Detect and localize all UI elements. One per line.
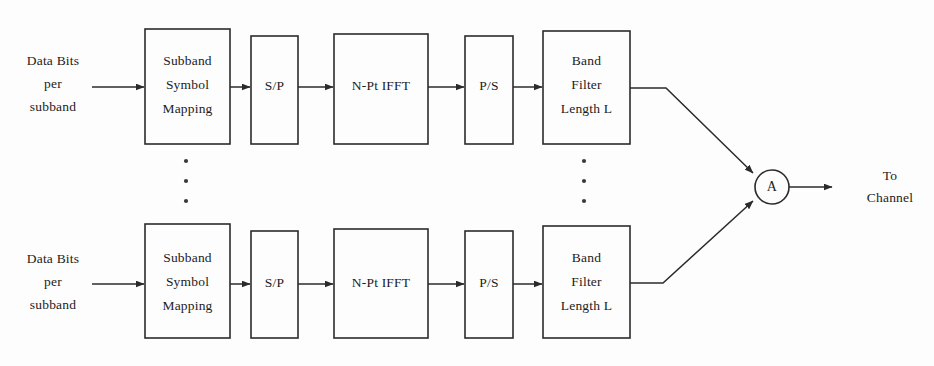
top-input-label-line1: Data Bits bbox=[27, 53, 79, 68]
top-block-parallel-to-serial-label: P/S bbox=[479, 78, 498, 93]
bottom-block-band-filter-line2: Filter bbox=[571, 274, 602, 289]
bottom-block-parallel-to-serial-label: P/S bbox=[479, 275, 498, 290]
block-diagram-canvas: Data Bits per subband Subband Symbol Map… bbox=[0, 0, 934, 366]
left-ellipsis-dot-2 bbox=[184, 179, 188, 183]
bottom-block-subband-symbol-mapping-line3: Mapping bbox=[162, 298, 212, 313]
top-input-label-line2: per bbox=[44, 76, 62, 91]
top-input-label: Data Bits per subband bbox=[27, 53, 79, 114]
top-block-subband-symbol-mapping-line2: Symbol bbox=[166, 77, 209, 92]
top-branch-to-adder-path bbox=[630, 88, 753, 173]
right-ellipsis-dot-3 bbox=[582, 199, 586, 203]
bottom-input-label-line3: subband bbox=[30, 297, 76, 312]
right-vertical-ellipsis bbox=[582, 159, 586, 203]
bottom-branch: Data Bits per subband Subband Symbol Map… bbox=[27, 201, 753, 338]
bottom-block-n-pt-ifft-label: N-Pt IFFT bbox=[352, 275, 411, 290]
top-branch: Data Bits per subband Subband Symbol Map… bbox=[27, 29, 753, 173]
top-block-serial-to-parallel-label: S/P bbox=[265, 78, 284, 93]
diagram-svg: Data Bits per subband Subband Symbol Map… bbox=[0, 0, 934, 366]
top-block-subband-symbol-mapping-line3: Mapping bbox=[162, 101, 212, 116]
bottom-input-label-line2: per bbox=[44, 274, 62, 289]
bottom-block-band-filter-line3: Length L bbox=[561, 298, 612, 313]
top-block-band-filter-line1: Band bbox=[572, 53, 601, 68]
right-ellipsis-dot-2 bbox=[582, 179, 586, 183]
bottom-block-band-filter-line1: Band bbox=[572, 250, 601, 265]
adder-node[interactable]: A bbox=[755, 170, 789, 204]
bottom-branch-to-adder-path bbox=[630, 201, 753, 283]
adder-symbol-label: A bbox=[767, 179, 778, 194]
left-ellipsis-dot-3 bbox=[184, 199, 188, 203]
bottom-block-serial-to-parallel-label: S/P bbox=[265, 275, 284, 290]
top-block-band-filter-line3: Length L bbox=[561, 101, 612, 116]
top-block-band-filter-line2: Filter bbox=[571, 77, 602, 92]
left-ellipsis-dot-1 bbox=[184, 159, 188, 163]
top-input-label-line3: subband bbox=[30, 99, 76, 114]
top-block-n-pt-ifft-label: N-Pt IFFT bbox=[352, 78, 411, 93]
left-vertical-ellipsis bbox=[184, 159, 188, 203]
right-ellipsis-dot-1 bbox=[582, 159, 586, 163]
bottom-input-label: Data Bits per subband bbox=[27, 251, 79, 312]
output-label-line2: Channel bbox=[867, 190, 913, 205]
top-block-subband-symbol-mapping-line1: Subband bbox=[163, 53, 212, 68]
bottom-block-subband-symbol-mapping-line2: Symbol bbox=[166, 274, 209, 289]
output-label: To Channel bbox=[867, 168, 913, 205]
output-label-line1: To bbox=[883, 168, 898, 183]
bottom-block-subband-symbol-mapping-line1: Subband bbox=[163, 250, 212, 265]
bottom-input-label-line1: Data Bits bbox=[27, 251, 79, 266]
